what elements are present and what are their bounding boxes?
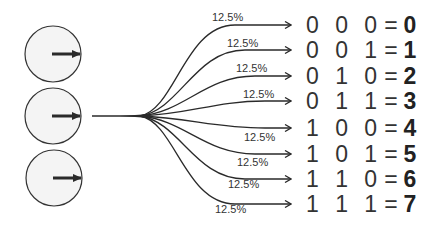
bit-string: 0 1 1 xyxy=(306,88,382,115)
outcome-row: 0 1 1=3 xyxy=(306,89,416,113)
probability-label: 12.5% xyxy=(243,88,274,100)
bit-string: 1 0 1 xyxy=(306,141,382,168)
decimal-value: 4 xyxy=(404,115,417,142)
decimal-value: 2 xyxy=(404,63,417,90)
equals-sign: = xyxy=(384,63,397,90)
probability-label: 12.5% xyxy=(228,178,259,190)
outcome-row: 1 0 1=5 xyxy=(306,142,416,166)
probability-label: 12.5% xyxy=(212,11,243,23)
outcome-row: 0 0 0=0 xyxy=(306,13,416,37)
probability-label: 12.5% xyxy=(236,62,267,74)
bit-string: 1 1 0 xyxy=(306,166,382,193)
bit-string: 1 1 1 xyxy=(306,191,382,218)
bit-string: 0 0 1 xyxy=(306,37,382,64)
equals-sign: = xyxy=(384,37,397,64)
decimal-value: 6 xyxy=(404,166,417,193)
bit-string: 0 0 0 xyxy=(306,12,382,39)
probability-label: 12.5% xyxy=(227,37,258,49)
equals-sign: = xyxy=(384,191,397,218)
equals-sign: = xyxy=(384,141,397,168)
probability-label: 12.5% xyxy=(237,156,268,168)
outcome-row: 1 1 0=6 xyxy=(306,167,416,191)
bit-string: 1 0 0 xyxy=(306,115,382,142)
qubit-2 xyxy=(25,88,81,144)
outcome-row: 0 1 0=2 xyxy=(306,64,416,88)
probability-label: 12.5% xyxy=(215,203,246,215)
equals-sign: = xyxy=(384,12,397,39)
outcome-row: 1 0 0=4 xyxy=(306,116,416,140)
branch-curves xyxy=(140,25,291,204)
qubit-3 xyxy=(26,150,82,206)
qubit-1 xyxy=(25,26,81,82)
outcome-row: 1 1 1=7 xyxy=(306,192,416,216)
decimal-value: 0 xyxy=(404,12,417,39)
equals-sign: = xyxy=(384,88,397,115)
bit-string: 0 1 0 xyxy=(306,63,382,90)
outcome-row: 0 0 1=1 xyxy=(306,38,416,62)
decimal-value: 5 xyxy=(404,141,417,168)
decimal-value: 3 xyxy=(404,88,417,115)
probability-label: 12.5% xyxy=(244,131,275,143)
equals-sign: = xyxy=(384,166,397,193)
equals-sign: = xyxy=(384,115,397,142)
decimal-value: 7 xyxy=(404,191,417,218)
decimal-value: 1 xyxy=(404,37,417,64)
